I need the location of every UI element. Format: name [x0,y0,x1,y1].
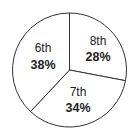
slice-percent-8th: 28% [85,50,110,64]
pie-chart: 8th 28% 7th 34% 6th 38% [0,0,137,132]
slice-percent-7th: 34% [65,101,90,115]
slice-percent-6th: 38% [30,58,55,72]
slice-label-8th: 8th [90,34,107,48]
slice-label-7th: 7th [70,85,87,99]
slice-label-6th: 6th [35,41,52,55]
